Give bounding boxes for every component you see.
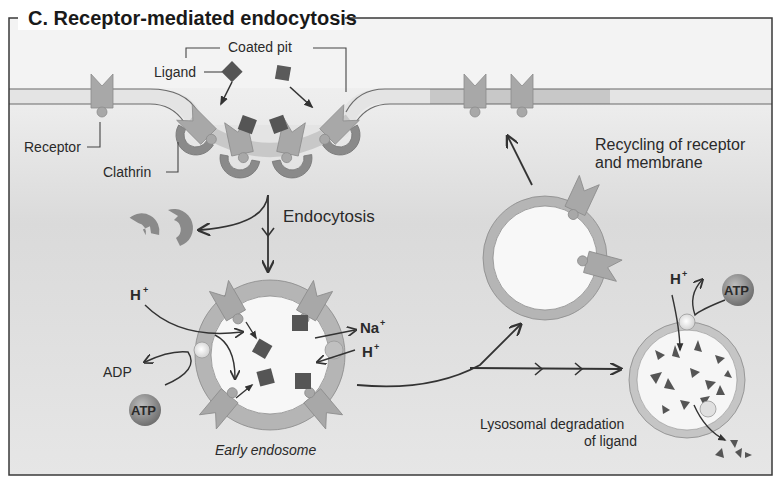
lysosome-proton-pump <box>679 314 695 330</box>
label-h-endosome: H <box>362 343 373 360</box>
label-atp-left: ATP <box>131 403 156 418</box>
label-endocytosis: Endocytosis <box>283 207 375 226</box>
label-clathrin: Clathrin <box>103 164 151 180</box>
label-early-endosome: Early endosome <box>215 442 316 458</box>
label-lysosomal-2: of ligand <box>584 433 637 449</box>
svg-text:+: + <box>374 342 379 352</box>
figure-title: C. Receptor-mediated endocytosis <box>28 7 357 29</box>
svg-text:+: + <box>682 269 687 279</box>
label-lysosomal-1: Lysosomal degradation <box>480 416 624 432</box>
label-h-left: H <box>130 286 141 303</box>
label-receptor: Receptor <box>24 139 81 155</box>
label-ligand: Ligand <box>154 64 196 80</box>
early-endosome <box>194 280 345 430</box>
label-recycling-2: and membrane <box>595 154 703 171</box>
label-h-lysosome: H <box>670 270 681 287</box>
label-adp: ADP <box>103 364 132 380</box>
label-coated-pit: Coated pit <box>228 39 292 55</box>
endocytosis-diagram: C. Receptor-mediated endocytosis Coated … <box>0 0 777 485</box>
ligand-free <box>275 65 291 81</box>
svg-text:+: + <box>380 318 385 328</box>
svg-text:+: + <box>143 285 148 295</box>
proton-pump <box>194 342 210 358</box>
lysosome-path-arrow <box>470 368 620 369</box>
label-recycling-1: Recycling of receptor <box>595 136 746 153</box>
label-na: Na <box>360 319 380 336</box>
label-atp-right: ATP <box>724 283 749 298</box>
